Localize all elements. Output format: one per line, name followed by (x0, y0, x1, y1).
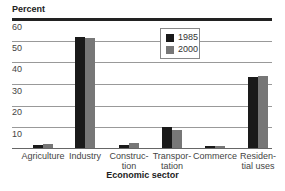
bar-industry-1985 (75, 37, 85, 148)
bar-residential-uses-2000 (258, 76, 268, 148)
x-category-residential-uses: Residen-tial uses (233, 151, 283, 171)
legend-swatch-2000 (166, 46, 174, 54)
bar-industry-2000 (85, 38, 95, 148)
x-axis-baseline (12, 148, 272, 149)
y-tick-20: 20 (12, 107, 22, 117)
y-tick-30: 30 (12, 86, 22, 96)
y-tick-10: 10 (12, 129, 22, 139)
gridline-10 (12, 127, 272, 128)
y-axis-title: Percent (12, 4, 45, 14)
bar-transportation-2000 (172, 130, 182, 148)
legend: 1985 2000 (160, 28, 200, 59)
y-tick-40: 40 (12, 64, 22, 74)
y-tick-60: 60 (12, 22, 22, 32)
top-rule (12, 18, 272, 21)
x-axis-title: Economic sector (0, 170, 285, 180)
x-category-industry: Industry (60, 151, 110, 161)
legend-swatch-1985 (166, 34, 174, 42)
y-tick-50: 50 (12, 43, 22, 53)
bar-transportation-1985 (162, 127, 172, 149)
gridline-30 (12, 84, 272, 85)
gridline-20 (12, 106, 272, 107)
bar-residential-uses-1985 (248, 77, 258, 148)
gridline-50 (12, 41, 272, 42)
gridline-40 (12, 62, 272, 63)
legend-label-2000: 2000 (178, 44, 198, 54)
legend-label-1985: 1985 (178, 32, 198, 42)
